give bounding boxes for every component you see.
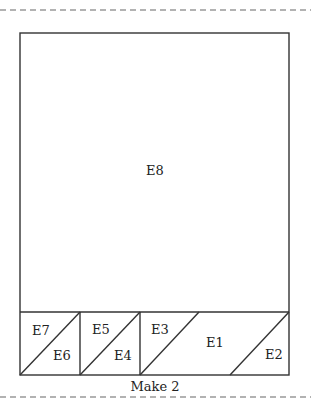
diagonal-e1-e2: [230, 312, 289, 375]
make-count-caption: Make 2: [130, 379, 179, 394]
piece-label-e6: E6: [53, 348, 71, 363]
piece-label-e3: E3: [151, 322, 169, 337]
diagonal-e3-e1: [140, 312, 199, 375]
quilt-block-diagram: E8 E7 E6 E5 E4 E3 E1 E2 Make 2: [0, 0, 311, 399]
diagonal-e5-e4: [80, 312, 140, 375]
piece-label-e5: E5: [92, 322, 110, 337]
piece-label-e1: E1: [206, 335, 224, 350]
piece-label-e8: E8: [146, 163, 164, 178]
piece-label-e4: E4: [114, 348, 132, 363]
piece-label-e2: E2: [265, 347, 283, 362]
piece-label-e7: E7: [32, 323, 50, 338]
diagonal-e7-e6: [20, 312, 80, 375]
